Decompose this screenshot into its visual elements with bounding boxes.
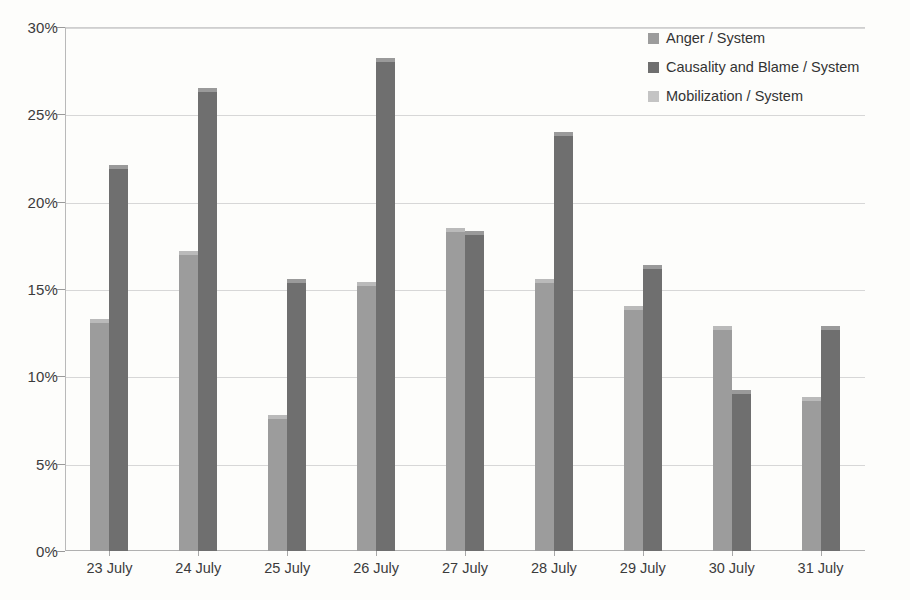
bar[interactable] (90, 319, 109, 551)
y-axis-tick-mark (57, 551, 65, 552)
y-axis-tick-mark (57, 464, 65, 465)
y-axis-tick-label: 25% (0, 106, 58, 123)
x-axis-tick-label: 26 July (332, 560, 421, 576)
x-axis-tick-mark (643, 551, 644, 556)
bar-group (154, 27, 243, 551)
bar[interactable] (535, 279, 554, 551)
bar[interactable] (554, 132, 573, 551)
bar-group (332, 27, 421, 551)
legend-item-label: Causality and Blame / System (666, 59, 859, 75)
x-axis-tick-mark (198, 551, 199, 556)
bar[interactable] (287, 279, 306, 551)
x-axis-tick-mark (732, 551, 733, 556)
x-axis-tick-label: 27 July (421, 560, 510, 576)
bar[interactable] (198, 88, 217, 551)
legend-item-label: Anger / System (666, 30, 765, 46)
x-axis-tick-mark (376, 551, 377, 556)
legend-swatch-icon (648, 33, 659, 44)
y-axis-tick-mark (57, 27, 65, 28)
x-axis-tick-label: 31 July (776, 560, 865, 576)
x-axis-tick-mark (109, 551, 110, 556)
chart-figure: 0%5%10%15%20%25%30% 23 July24 July25 Jul… (0, 0, 910, 600)
x-axis-tick-label: 23 July (65, 560, 154, 576)
y-axis-tick-label: 10% (0, 368, 58, 385)
y-axis-tick-mark (57, 289, 65, 290)
bar[interactable] (821, 326, 840, 551)
y-axis-tick-label: 20% (0, 193, 58, 210)
bar[interactable] (643, 265, 662, 551)
x-axis-tick-label: 25 July (243, 560, 332, 576)
x-axis-tick-label: 30 July (687, 560, 776, 576)
y-axis-tick-label: 30% (0, 19, 58, 36)
y-axis-tick-mark (57, 202, 65, 203)
bar[interactable] (357, 282, 376, 551)
bar-group (65, 27, 154, 551)
x-axis-labels: 23 July24 July25 July26 July27 July28 Ju… (65, 560, 865, 576)
x-axis-tick-mark (465, 551, 466, 556)
legend-swatch-icon (648, 62, 659, 73)
legend-item[interactable]: Causality and Blame / System (648, 55, 904, 79)
bar[interactable] (179, 251, 198, 551)
bar[interactable] (624, 306, 643, 551)
bar[interactable] (446, 228, 465, 551)
x-axis-tick-mark (821, 551, 822, 556)
x-axis-tick-label: 24 July (154, 560, 243, 576)
legend-item-label: Mobilization / System (666, 88, 803, 104)
y-axis-tick-label: 0% (0, 543, 58, 560)
legend-swatch-icon (648, 91, 659, 102)
bar[interactable] (802, 397, 821, 551)
y-axis-tick-label: 5% (0, 455, 58, 472)
bar[interactable] (713, 326, 732, 551)
x-axis-tick-mark (287, 551, 288, 556)
bar-group (509, 27, 598, 551)
x-axis-tick-label: 29 July (598, 560, 687, 576)
bar[interactable] (376, 58, 395, 551)
y-axis-tick-mark (57, 376, 65, 377)
x-axis-tick-label: 28 July (509, 560, 598, 576)
bar[interactable] (732, 390, 751, 551)
x-axis-tick-mark (554, 551, 555, 556)
bar[interactable] (109, 165, 128, 551)
bar[interactable] (465, 231, 484, 551)
legend-item[interactable]: Mobilization / System (648, 84, 904, 108)
y-axis-tick-mark (57, 114, 65, 115)
legend-item[interactable]: Anger / System (648, 26, 904, 50)
chart-legend: Anger / SystemCausality and Blame / Syst… (648, 26, 904, 113)
bar-group (243, 27, 332, 551)
bar[interactable] (268, 415, 287, 551)
bar-group (421, 27, 510, 551)
y-axis-tick-label: 15% (0, 281, 58, 298)
